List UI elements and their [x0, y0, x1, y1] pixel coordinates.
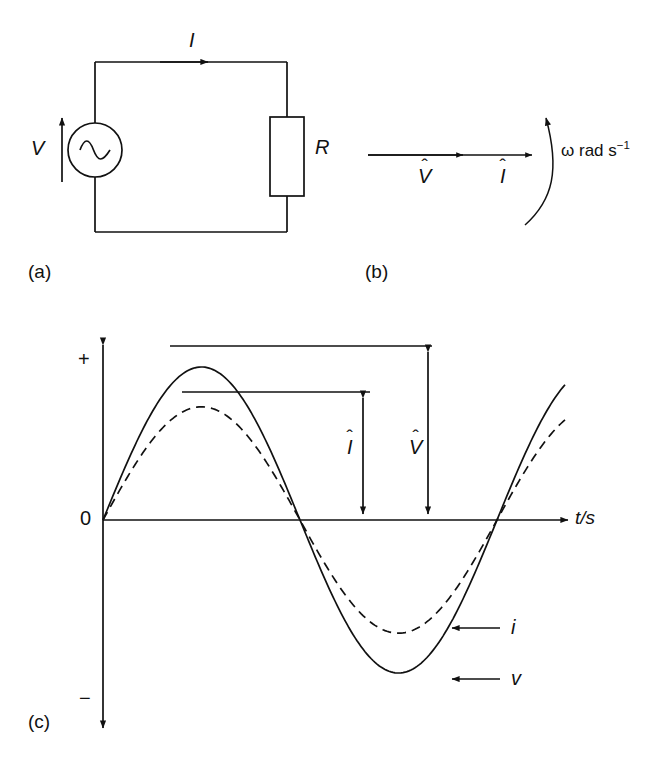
x-axis-label-text: t/s	[575, 507, 595, 528]
panel-label-b: (b)	[365, 262, 388, 281]
angular-velocity-exponent: −1	[617, 139, 630, 151]
panel-label-c: (c)	[28, 712, 50, 731]
x-axis-label: t/s	[575, 508, 595, 527]
amplitude-voltage-hat: ˆ	[413, 427, 419, 446]
phasor-current-label: ˆ I	[500, 166, 506, 186]
rotation-arc-arrow	[525, 118, 553, 225]
curve-label-voltage: v	[511, 668, 521, 688]
curve-label-current: i	[511, 617, 515, 637]
y-axis-minus-label: −	[79, 688, 91, 708]
waveform-plot	[103, 345, 568, 728]
figure-svg	[0, 0, 652, 776]
resistor-label: R	[315, 137, 329, 157]
phasor-voltage-hat: ˆ	[422, 156, 428, 175]
phasor-current-hat: ˆ	[500, 156, 506, 175]
angular-velocity-text: ω rad s	[561, 141, 617, 160]
amplitude-current-hat: ˆ	[347, 427, 353, 446]
figure-container: V I R (a) ˆ V ˆ I ω rad s−1 (b) + 0 − t/…	[0, 0, 652, 776]
amplitude-label-voltage: ˆ V	[409, 437, 422, 457]
circuit-diagram	[62, 62, 304, 232]
y-axis-plus-label: +	[78, 349, 90, 369]
phasor-diagram	[368, 118, 553, 225]
panel-label-a: (a)	[28, 262, 51, 281]
phasor-voltage-label: ˆ V	[418, 166, 431, 186]
source-voltage-label: V	[31, 138, 44, 158]
y-axis-zero-label: 0	[80, 508, 91, 528]
sine-wave-icon	[80, 141, 110, 159]
resistor-symbol	[270, 117, 304, 196]
ac-source-symbol	[68, 123, 122, 177]
circuit-current-label: I	[189, 30, 195, 50]
angular-velocity-label: ω rad s−1	[561, 140, 630, 159]
amplitude-label-current: ˆ I	[347, 437, 353, 457]
